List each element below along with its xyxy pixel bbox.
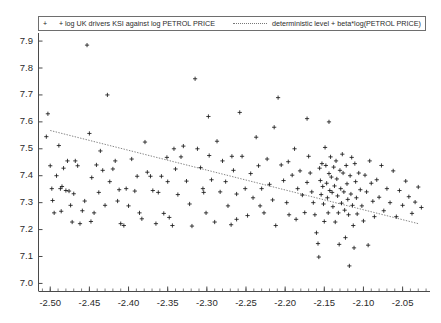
scatter-point [350,155,354,159]
y-axis-tick-label: 7.5 [0,142,33,153]
scatter-point [318,178,322,182]
scatter-point [130,157,134,161]
scatter-point [323,145,327,149]
scatter-point [167,215,171,219]
scatter-point [276,96,280,100]
scatter-point [76,164,80,168]
scatter-point [124,187,128,191]
scatter-point [230,154,234,158]
scatter-point [407,195,411,199]
scatter-point [52,211,56,215]
trend-line [50,130,418,223]
scatter-point [50,187,54,191]
x-axis-tick-label: -2.05 [381,297,425,308]
scatter-point [274,223,278,227]
scatter-point [115,199,119,203]
scatter-point [310,190,314,194]
scatter-point [78,222,82,226]
scatter-point [220,159,224,163]
scatter-point [348,174,352,178]
y-axis-ticks [39,41,43,283]
scatter-point [126,204,130,208]
scatter-point [215,139,219,143]
scatter-point [400,203,404,207]
scatter-point [166,180,170,184]
scatter-point [285,201,289,205]
legend-label-line: deterministic level + beta*log(PETROL PR… [272,20,421,27]
axis-lines [39,33,431,292]
scatter-point [347,264,351,268]
scatter-point [372,215,376,219]
scatter-point [305,180,309,184]
scatter-point [308,171,312,175]
scatter-point [339,201,343,205]
scatter-point [249,171,253,175]
scatter-point [226,204,230,208]
scatter-point [349,192,353,196]
scatter-point [333,220,337,224]
scatter-point [351,223,355,227]
scatter-point [345,182,349,186]
scatter-point [346,213,350,217]
scatter-point [325,196,329,200]
scatter-point [245,213,249,217]
scatter-point [213,220,217,224]
scatter-point [346,197,350,201]
scatter-point [90,175,94,179]
x-axis-tick-label: -2.25 [224,297,268,308]
scatter-point [339,187,343,191]
scatter-point [290,173,294,177]
scatter-point [251,196,255,200]
scatter-point [319,192,323,196]
scatter-point [64,188,68,192]
scatter-point [321,202,325,206]
scatter-point [234,217,238,221]
scatter-point [85,43,89,47]
scatter-point [198,166,202,170]
scatter-point [296,187,300,191]
y-axis-tick-label: 7.7 [0,88,33,99]
scatter-point [176,192,180,196]
scatter-point [287,213,291,217]
scatter-point [195,147,199,151]
scatter-point [97,190,101,194]
x-axis-tick-label: -2.35 [146,297,190,308]
scatter-point [70,220,74,224]
scatter-point [254,135,258,139]
y-axis-tick-label: 7.4 [0,169,33,180]
scatter-point [327,120,331,124]
legend-label-scatter: log UK drivers KSI against log PETROL PR… [65,20,215,27]
scatter-point [325,181,329,185]
scatter-point [366,243,370,247]
scatter-point [69,203,73,207]
scatter-point [416,185,420,189]
scatter-point [413,200,417,204]
scatter-point [65,159,69,163]
scatter-point [377,195,381,199]
scatter-point [337,242,341,246]
scatter-point [218,190,222,194]
scatter-point [332,165,336,169]
scatter-point [353,161,357,165]
scatter-point [83,199,87,203]
scatter-point [67,189,71,193]
scatter-point [320,161,324,165]
scatter-point [303,211,307,215]
scatter-point [371,199,375,203]
scatter-point [368,159,372,163]
x-axis-tick-label: -2.50 [28,297,72,308]
scatter-point [54,174,58,178]
scatter-point [170,223,174,227]
scatter-point [404,179,408,183]
scatter-point [317,166,321,170]
scatter-point [204,211,208,215]
scatter-point [44,135,48,139]
scatter-points [44,43,423,268]
scatter-point [162,211,166,215]
scatter-point [341,171,345,175]
scatter-point [354,196,358,200]
scatter-point [298,169,302,173]
scatter-point [344,163,348,167]
scatter-point [59,209,63,213]
y-axis-tick-label: 7.2 [0,223,33,234]
